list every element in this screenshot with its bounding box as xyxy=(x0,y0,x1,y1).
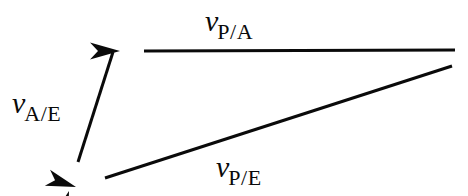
label-v-a-e: vA/E xyxy=(12,88,62,118)
label-v-p-a-subscript: P/A xyxy=(217,19,253,44)
label-v-p-e-subscript: P/E xyxy=(228,165,261,190)
vector-v-p-a-arrowhead xyxy=(90,43,120,60)
vector-v-a-e xyxy=(52,52,113,196)
label-v-a-e-subscript: A/E xyxy=(24,101,61,126)
vector-v-p-e-shaft xyxy=(105,66,452,178)
label-v-p-e: vP/E xyxy=(216,152,263,182)
vector-v-a-e-arrowhead xyxy=(52,188,77,196)
vector-v-p-e-arrowhead xyxy=(45,170,79,195)
vector-diagram: vP/A vA/E vP/E xyxy=(0,0,468,196)
vector-v-p-a-shaft xyxy=(144,50,455,51)
vector-v-p-a xyxy=(90,43,455,60)
label-v-p-a: vP/A xyxy=(205,6,254,36)
vector-v-a-e-shaft xyxy=(78,52,113,162)
